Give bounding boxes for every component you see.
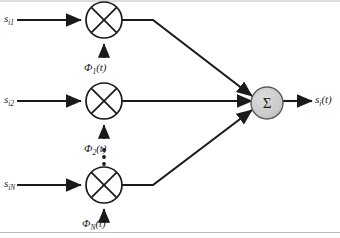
carrier-arg-1: (t) xyxy=(96,61,106,73)
sum-node-symbol: Σ xyxy=(263,95,272,111)
carrier-subscript-3: N xyxy=(90,223,95,232)
output-label: si(t) xyxy=(315,94,332,105)
input-label-2: si2 xyxy=(4,94,14,105)
carrier-label-1: Φ1(t) xyxy=(84,62,107,73)
carrier-label-2: Φ2(t) xyxy=(84,143,107,154)
carrier-arg-2: (t) xyxy=(96,142,106,154)
input-label-1: si1 xyxy=(4,13,14,24)
input-subscript-1: i1 xyxy=(8,18,14,27)
sum-feed-path-3 xyxy=(122,110,252,185)
carrier-arg-3: (t) xyxy=(95,217,105,229)
carrier-subscript-2: 2 xyxy=(92,148,96,157)
sum-feed-path-1 xyxy=(122,20,252,96)
carrier-label-3: ΦN(t) xyxy=(82,218,106,229)
input-subscript-3: iN xyxy=(8,183,15,192)
diagram-vector-layer: Σ xyxy=(0,0,340,238)
carrier-subscript-1: 1 xyxy=(92,67,96,76)
input-label-3: siN xyxy=(4,178,15,189)
input-subscript-2: i2 xyxy=(8,99,14,108)
output-arg: (t) xyxy=(321,93,331,105)
diagram-canvas: Σ si1 Φ1(t) si2 Φ2(t) siN ΦN(t) si(t) xyxy=(0,0,340,238)
